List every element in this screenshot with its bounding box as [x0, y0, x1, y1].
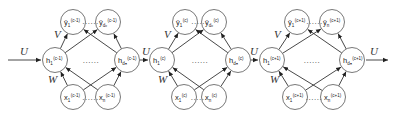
label-u-1: U	[20, 45, 29, 57]
input-node-1: x1(c+1)	[283, 85, 308, 110]
time-block-1: ŷ1(c-1)ŷdₒ(c-1)h1(c-1)hdₕ(c-1)x1(c-1)xn(…	[43, 10, 140, 110]
ellipsis-output: ......	[191, 17, 207, 26]
hidden-node-2: hdₕ(c)	[226, 48, 251, 73]
output-node-2: ŷdₒ(c-1)	[96, 10, 121, 35]
label-v-3: V	[274, 28, 282, 40]
edge-w	[279, 71, 289, 86]
edge-w	[114, 72, 121, 86]
edge-w	[221, 71, 231, 87]
ellipsis-hidden: ......	[83, 56, 99, 65]
hidden-node-2: hdₕ(c+1)	[340, 48, 365, 73]
ellipsis-output: ......	[306, 17, 322, 26]
label-w-3: W	[270, 73, 280, 85]
time-block-3: ŷ1(c+1)ŷn(c+1)h1(c+1)hdₕ(c+1)x1(c+1)xn(c…	[260, 10, 365, 110]
label-v-2: V	[164, 28, 172, 40]
time-block-2: ŷ1(c)ŷdₒ(c)h1(c)hdₕ(c)x1(c)xn(c)........…	[150, 10, 251, 110]
label-u-2: U	[142, 45, 151, 57]
ellipsis-input: ......	[82, 93, 98, 102]
edge-v	[221, 33, 231, 49]
edge-w	[339, 72, 346, 86]
label-w-1: W	[48, 73, 58, 85]
edge-w	[61, 72, 68, 86]
edge-w	[169, 71, 178, 86]
edge-v	[338, 34, 346, 49]
input-node-2: xn(c-1)	[96, 85, 121, 110]
rnn-diagram: ŷ1(c-1)ŷdₒ(c-1)h1(c-1)hdₕ(c-1)x1(c-1)xn(…	[0, 0, 404, 117]
ellipsis-output: ......	[82, 17, 98, 26]
ellipsis-input: ......	[191, 93, 207, 102]
hidden-node-1: h1(c)	[150, 48, 175, 73]
edge-v	[60, 34, 67, 49]
input-node-2: xn(c+1)	[321, 85, 346, 110]
label-v-1: V	[54, 28, 62, 40]
hidden-node-1: h1(c-1)	[43, 48, 68, 73]
label-w-2: W	[158, 73, 168, 85]
label-u-3: U	[250, 45, 259, 57]
ellipsis-hidden: ......	[192, 56, 208, 65]
ellipsis-hidden: ......	[304, 56, 320, 65]
hidden-node-1: h1(c+1)	[260, 48, 285, 73]
label-u-4: U	[370, 45, 379, 57]
hidden-node-2: hdₕ(c-1)	[115, 48, 140, 73]
edge-v	[114, 34, 122, 49]
output-node-2: ŷn(c+1)	[320, 10, 345, 35]
ellipsis-input: ......	[306, 93, 322, 102]
